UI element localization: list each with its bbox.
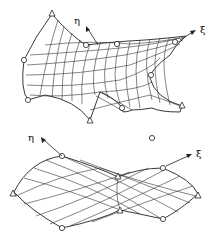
- diagram-canvas: η ξ η ξ: [0, 0, 215, 239]
- xi-axis-arrow: [180, 32, 193, 40]
- corner-node: [49, 10, 55, 16]
- midside-node: [25, 97, 30, 102]
- midside-node: [160, 216, 165, 221]
- midside-node: [148, 72, 153, 77]
- xi-axis-arrow: [166, 156, 188, 166]
- eta-axis-arrow: [88, 29, 98, 45]
- midside-node: [119, 105, 124, 110]
- xi-axis-label: ξ: [200, 24, 206, 35]
- eta-axis-arrow: [44, 140, 62, 156]
- eta-axis-label: η: [28, 132, 34, 143]
- midside-node: [160, 165, 165, 170]
- midside-node: [172, 39, 177, 44]
- midside-node: [21, 57, 26, 62]
- arrowhead-icon: [190, 30, 196, 35]
- eta-axis-label: η: [74, 15, 80, 26]
- top-surface: [23, 14, 186, 120]
- midside-node: [149, 135, 154, 140]
- midside-node: [83, 42, 88, 47]
- xi-axis-label: ξ: [196, 148, 202, 159]
- corner-node: [195, 192, 201, 198]
- arrowhead-icon: [41, 137, 46, 143]
- arrowhead-icon: [186, 154, 192, 158]
- midside-node: [114, 41, 119, 46]
- midside-node: [59, 225, 64, 230]
- bottom-surface: [14, 156, 198, 228]
